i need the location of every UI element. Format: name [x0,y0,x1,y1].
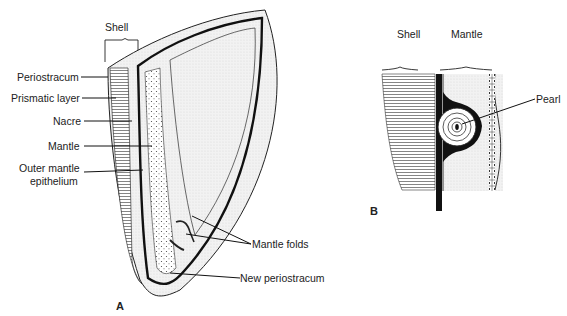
pearl-label: Pearl [536,93,561,105]
panel-a-shell-label: Shell [105,21,128,33]
mantle-label: Mantle [48,140,80,152]
panel-a-letter: A [116,300,124,312]
panel-b-letter: B [370,205,378,217]
nacre-label: Nacre [53,115,81,127]
outer-mantle-label-line1: Outer mantle [19,162,80,174]
mantle-folds-label: Mantle folds [252,238,309,250]
new-periostracum-label: New periostracum [240,272,325,284]
panel-a-drawing [81,10,277,296]
panel-b-drawing [382,67,535,211]
figure: Shell Periostracum Prismatic layer Nacre… [0,0,567,316]
panel-b-mantle-label: Mantle [451,28,483,40]
shell-cross-section-diagram [0,0,567,316]
panel-b-shell-label: Shell [397,28,420,40]
prismatic-layer-label: Prismatic layer [11,92,80,104]
periostracum-label: Periostracum [17,71,79,83]
outer-mantle-label-line2: epithelium [30,175,78,187]
